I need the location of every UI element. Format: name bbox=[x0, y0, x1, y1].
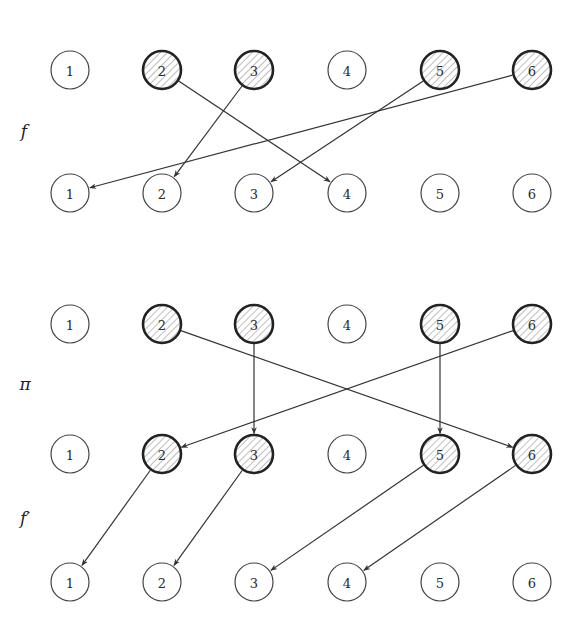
node-number: 1 bbox=[66, 576, 74, 591]
mapping-label-pi: π bbox=[18, 374, 31, 394]
node-number: 6 bbox=[528, 576, 536, 591]
arrow-3-to-2 bbox=[174, 470, 242, 565]
mapping-labels-layer: fπf′ bbox=[18, 121, 31, 528]
hatched-node-5: 5 bbox=[421, 435, 459, 473]
hatched-node-3: 3 bbox=[235, 51, 273, 89]
node-number: 4 bbox=[343, 64, 351, 79]
node-number: 5 bbox=[436, 187, 444, 202]
hatched-node-5: 5 bbox=[421, 305, 459, 343]
node-number: 2 bbox=[158, 576, 166, 591]
nodes-layer: 123456123456123456123456123456 bbox=[51, 51, 551, 601]
node-4: 4 bbox=[328, 174, 366, 212]
arrow-5-to-3 bbox=[271, 465, 424, 570]
arrow-2-to-4 bbox=[179, 81, 330, 182]
node-number: 4 bbox=[343, 576, 351, 591]
hatched-node-2: 2 bbox=[143, 305, 181, 343]
hatched-node-2: 2 bbox=[143, 435, 181, 473]
node-number: 6 bbox=[528, 318, 536, 333]
node-number: 5 bbox=[436, 64, 444, 79]
node-number: 1 bbox=[66, 318, 74, 333]
node-number: 3 bbox=[250, 187, 258, 202]
node-number: 1 bbox=[66, 448, 74, 463]
node-number: 5 bbox=[436, 318, 444, 333]
node-1: 1 bbox=[51, 305, 89, 343]
node-3: 3 bbox=[235, 563, 273, 601]
mapping-f-prime-edges bbox=[82, 465, 516, 570]
node-number: 5 bbox=[436, 448, 444, 463]
mapping-pi-edges bbox=[181, 331, 513, 448]
arrow-6-to-1 bbox=[90, 75, 513, 188]
node-number: 5 bbox=[436, 576, 444, 591]
node-row-pi-source: 123456 bbox=[51, 305, 551, 343]
hatched-node-5: 5 bbox=[421, 51, 459, 89]
node-6: 6 bbox=[513, 563, 551, 601]
node-6: 6 bbox=[513, 174, 551, 212]
node-number: 2 bbox=[158, 187, 166, 202]
mapping-diagram: 123456123456123456123456123456 fπf′ bbox=[0, 0, 582, 631]
node-1: 1 bbox=[51, 51, 89, 89]
node-number: 1 bbox=[66, 187, 74, 202]
node-number: 2 bbox=[158, 318, 166, 333]
hatched-node-6: 6 bbox=[513, 435, 551, 473]
node-number: 2 bbox=[158, 64, 166, 79]
node-number: 3 bbox=[250, 576, 258, 591]
hatched-node-6: 6 bbox=[513, 305, 551, 343]
node-4: 4 bbox=[328, 51, 366, 89]
hatched-node-6: 6 bbox=[513, 51, 551, 89]
node-number: 4 bbox=[343, 318, 351, 333]
node-number: 3 bbox=[250, 64, 258, 79]
node-3: 3 bbox=[235, 174, 273, 212]
arrow-6-to-4 bbox=[364, 465, 516, 570]
node-5: 5 bbox=[421, 174, 459, 212]
node-2: 2 bbox=[143, 563, 181, 601]
node-number: 6 bbox=[528, 448, 536, 463]
arrow-2-to-1 bbox=[82, 470, 150, 565]
node-number: 4 bbox=[343, 448, 351, 463]
mapping-f-edges bbox=[90, 75, 513, 188]
mapping-label-f: f bbox=[19, 121, 30, 141]
node-1: 1 bbox=[51, 174, 89, 212]
node-number: 4 bbox=[343, 187, 351, 202]
node-number: 3 bbox=[250, 448, 258, 463]
node-1: 1 bbox=[51, 563, 89, 601]
hatched-node-3: 3 bbox=[235, 435, 273, 473]
node-4: 4 bbox=[328, 305, 366, 343]
node-number: 6 bbox=[528, 187, 536, 202]
node-2: 2 bbox=[143, 174, 181, 212]
node-number: 2 bbox=[158, 448, 166, 463]
node-row-pi-target: 123456 bbox=[51, 435, 551, 473]
node-number: 6 bbox=[528, 64, 536, 79]
hatched-node-3: 3 bbox=[235, 305, 273, 343]
mapping-label-f-prime: f′ bbox=[18, 508, 30, 528]
node-4: 4 bbox=[328, 563, 366, 601]
node-number: 1 bbox=[66, 64, 74, 79]
node-number: 3 bbox=[250, 318, 258, 333]
node-5: 5 bbox=[421, 563, 459, 601]
node-row-fprime-target: 123456 bbox=[51, 563, 551, 601]
node-row-f-target: 123456 bbox=[51, 174, 551, 212]
node-1: 1 bbox=[51, 435, 89, 473]
arrow-5-to-3 bbox=[271, 81, 423, 182]
node-4: 4 bbox=[328, 435, 366, 473]
hatched-node-2: 2 bbox=[143, 51, 181, 89]
node-row-f-source: 123456 bbox=[51, 51, 551, 89]
